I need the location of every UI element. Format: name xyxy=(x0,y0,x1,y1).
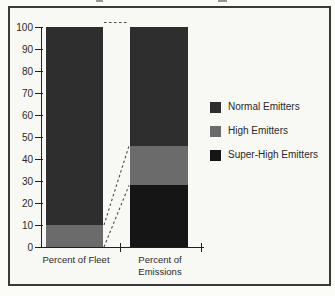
y-tick-label: 70 xyxy=(6,88,33,99)
legend-label: Super-High Emitters xyxy=(228,149,318,161)
y-axis-line xyxy=(41,27,42,248)
y-axis-tick xyxy=(35,27,43,28)
legend-row: Super-High Emitters xyxy=(210,149,318,161)
legend-label: High Emitters xyxy=(228,125,288,137)
bar-segment xyxy=(130,185,188,247)
category-label-fleet: Percent of Fleet xyxy=(42,254,109,266)
y-axis-tick xyxy=(35,247,43,248)
category-label-emissions: Percent of Emissions xyxy=(128,254,192,278)
y-axis-tick xyxy=(35,93,43,94)
clipped-title-fragment xyxy=(96,0,103,2)
legend-row: Normal Emitters xyxy=(210,101,300,113)
clipped-title-fragment xyxy=(218,0,227,2)
y-tick-label: 40 xyxy=(6,154,33,165)
y-axis-tick xyxy=(35,137,43,138)
bar-segment xyxy=(130,27,188,146)
legend-label: Normal Emitters xyxy=(228,101,300,113)
y-axis-tick xyxy=(35,203,43,204)
y-tick-label: 10 xyxy=(6,220,33,231)
y-axis-tick xyxy=(35,115,43,116)
y-axis-tick xyxy=(35,49,43,50)
y-tick-label: 20 xyxy=(6,198,33,209)
legend-row: High Emitters xyxy=(210,125,288,137)
y-tick-label: 30 xyxy=(6,176,33,187)
x-axis-tick xyxy=(120,243,121,252)
y-tick-label: 50 xyxy=(6,132,33,143)
bar-segment xyxy=(46,27,103,225)
legend-swatch-icon xyxy=(210,102,221,113)
legend-swatch-icon xyxy=(210,126,221,137)
x-axis-line xyxy=(41,247,204,248)
y-tick-label: 100 xyxy=(6,22,33,33)
y-tick-label: 0 xyxy=(6,242,33,253)
y-tick-label: 60 xyxy=(6,110,33,121)
y-tick-label: 90 xyxy=(6,44,33,55)
y-axis-tick xyxy=(35,159,43,160)
x-axis-tick xyxy=(201,243,202,252)
y-axis-tick xyxy=(35,181,43,182)
bar-segment xyxy=(46,225,103,247)
y-tick-label: 80 xyxy=(6,66,33,77)
y-axis-tick xyxy=(35,225,43,226)
bar-segment xyxy=(130,146,188,186)
legend-swatch-icon xyxy=(210,150,221,161)
y-axis-tick xyxy=(35,71,43,72)
